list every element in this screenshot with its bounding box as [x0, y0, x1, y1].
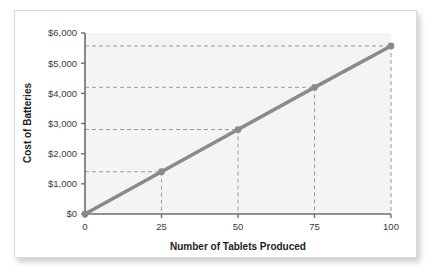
chart-card: $0$1,000$2,000$3,000$4,000$5,000$6,000 0…: [14, 10, 417, 258]
y-axis-tick-label: $5,000: [48, 58, 77, 69]
y-axis-tick-label: $3,000: [48, 118, 77, 129]
y-axis-tick-label: $0: [66, 208, 77, 219]
line-chart: $0$1,000$2,000$3,000$4,000$5,000$6,000 0…: [15, 11, 418, 259]
x-axis-tick-label: 100: [383, 221, 399, 232]
x-axis-tick-label: 75: [309, 221, 320, 232]
x-axis-tick-labels-group: 0255075100: [82, 221, 399, 232]
data-point-marker: [82, 211, 89, 218]
data-point-marker: [235, 126, 242, 133]
y-axis-tick-labels-group: $0$1,000$2,000$3,000$4,000$5,000$6,000: [48, 27, 77, 219]
y-axis-tick-label: $2,000: [48, 148, 77, 159]
y-axis-tick-label: $4,000: [48, 88, 77, 99]
data-point-marker: [158, 168, 165, 175]
x-axis-tick-label: 50: [233, 221, 244, 232]
data-point-marker: [311, 84, 318, 91]
figure-root: $0$1,000$2,000$3,000$4,000$5,000$6,000 0…: [0, 0, 433, 277]
y-axis-tick-label: $1,000: [48, 178, 77, 189]
y-axis-title: Cost of Batteries: [22, 83, 33, 163]
y-axis-tick-label: $6,000: [48, 27, 77, 38]
x-axis-tick-label: 0: [82, 221, 87, 232]
x-axis-title: Number of Tablets Produced: [170, 241, 306, 252]
data-point-marker: [388, 43, 395, 50]
x-axis-tick-label: 25: [156, 221, 167, 232]
